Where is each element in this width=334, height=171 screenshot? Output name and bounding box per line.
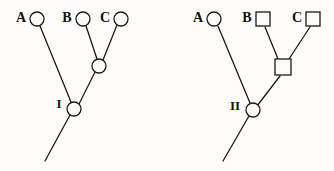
tip-label-B-left: B — [62, 10, 71, 25]
edge-C-to-bc-ancestor — [103, 25, 117, 60]
tip-label-C-right: C — [292, 10, 302, 25]
tip-node-A-right[interactable] — [207, 12, 221, 26]
internal-node-label-I: I — [56, 96, 61, 111]
edge-II-root-stem — [223, 116, 249, 161]
node-bc-ancestor-left[interactable] — [92, 59, 106, 73]
internal-node-label-II: II — [230, 98, 240, 113]
node-I[interactable] — [67, 102, 81, 116]
node-bc-ancestor-right[interactable] — [275, 59, 291, 75]
tip-node-C-left[interactable] — [114, 12, 128, 26]
tip-label-A-right: A — [193, 10, 204, 25]
edge-B-to-bc-ancestor-right — [265, 27, 278, 59]
tip-node-B-left[interactable] — [76, 12, 90, 26]
edge-B-to-bc-ancestor — [86, 26, 97, 59]
edge-A-to-II — [218, 26, 250, 103]
tip-node-A-left[interactable] — [30, 12, 44, 26]
right-phylogenetic-tree: A B C II — [193, 10, 320, 161]
edge-C-to-bc-ancestor-right — [289, 27, 310, 59]
phylogenetic-tree-figure: A B C I A B C II — [0, 0, 334, 171]
tip-label-B-right: B — [242, 10, 251, 25]
tip-node-C-right[interactable] — [306, 12, 320, 26]
edge-bc-ancestor-to-II — [257, 76, 280, 106]
tip-label-A-left: A — [16, 10, 27, 25]
edge-bc-ancestor-to-I — [79, 72, 95, 104]
node-II[interactable] — [246, 103, 260, 117]
edge-A-to-I — [40, 26, 71, 102]
edge-I-root-stem — [45, 115, 70, 161]
left-phylogenetic-tree: A B C I — [16, 10, 128, 161]
tip-node-B-right[interactable] — [256, 12, 270, 26]
tree-canvas: A B C I A B C II — [0, 0, 334, 171]
tip-label-C-left: C — [100, 10, 110, 25]
